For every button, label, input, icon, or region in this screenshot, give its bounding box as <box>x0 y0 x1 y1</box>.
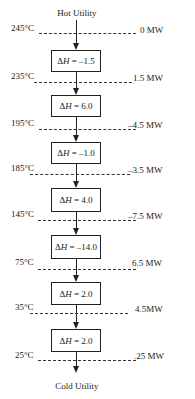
heat-flow-label: –7.5 MW <box>128 211 163 221</box>
heat-flow-label: 0 MW <box>140 25 163 35</box>
arrow-down-icon <box>73 135 79 142</box>
interval-boundary-line <box>30 313 128 314</box>
enthalpy-box: ΔH = –14.0 <box>51 235 101 259</box>
temperature-label: 35°C <box>15 302 34 312</box>
heat-flow-label: 1.5 MW <box>133 73 163 83</box>
interval-boundary-line <box>39 129 136 130</box>
flow-line <box>76 71 77 88</box>
flow-line <box>76 117 77 135</box>
heat-flow-label: 4.5MW <box>135 304 163 314</box>
enthalpy-box: ΔH = –1.5 <box>51 50 101 72</box>
temperature-label: 235°C <box>11 71 34 81</box>
heat-flow-label: –4.5 MW <box>128 120 163 130</box>
arrow-down-icon <box>73 228 79 235</box>
enthalpy-box: ΔH = 6.0 <box>51 95 101 117</box>
enthalpy-box: ΔH = 4.0 <box>51 188 101 212</box>
temperature-label: 185°C <box>11 163 34 173</box>
heat-flow-label: 6.5 MW <box>132 258 162 268</box>
temperature-label: 145°C <box>11 209 34 219</box>
interval-boundary-line <box>39 33 136 34</box>
hot-utility-label: Hot Utility <box>57 8 96 18</box>
arrow-down-icon <box>73 366 79 373</box>
arrow-down-icon <box>73 181 79 188</box>
flow-line <box>76 20 77 43</box>
flow-line <box>76 350 77 366</box>
enthalpy-box: ΔH = 2.0 <box>51 282 101 305</box>
cold-utility-label: Cold Utility <box>55 381 98 391</box>
arrow-down-icon <box>73 88 79 95</box>
arrow-down-icon <box>73 322 79 329</box>
arrow-down-icon <box>73 43 79 50</box>
temperature-label: 195°C <box>11 118 34 128</box>
heat-flow-label: –3.5 MW <box>128 165 163 175</box>
temperature-label: 245°C <box>11 23 34 33</box>
flow-line <box>76 258 77 275</box>
enthalpy-box: ΔH = 2.0 <box>51 329 101 352</box>
enthalpy-box: ΔH = –1.0 <box>51 142 101 164</box>
interval-boundary-line <box>30 174 130 175</box>
interval-boundary-line <box>34 82 132 83</box>
interval-boundary-line <box>38 220 136 221</box>
temperature-label: 25°C <box>15 350 34 360</box>
interval-boundary-line <box>38 360 136 361</box>
heat-flow-label: .25 MW <box>134 351 164 361</box>
temperature-label: 75°C <box>15 257 34 267</box>
arrow-down-icon <box>73 275 79 282</box>
interval-boundary-line <box>38 269 136 270</box>
flow-line <box>76 163 77 181</box>
